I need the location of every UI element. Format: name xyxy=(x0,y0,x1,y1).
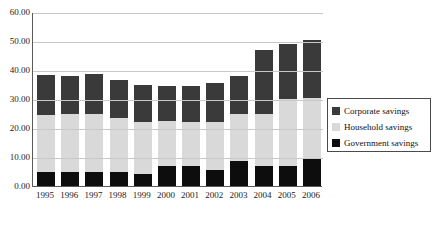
x-axis-tick-label: 2003 xyxy=(225,190,251,201)
bar-segment xyxy=(279,99,297,166)
gridline xyxy=(33,42,323,43)
y-axis-tick-label: 40.00 xyxy=(0,66,30,75)
bar-segment xyxy=(279,166,297,186)
legend-label: Household savings xyxy=(344,122,412,132)
bar-segment xyxy=(303,40,321,98)
bar-segment xyxy=(158,86,176,121)
x-axis-tick-label: 2000 xyxy=(153,190,179,201)
stacked-bar-chart: 60.0050.0040.0030.0020.0010.000.00 19951… xyxy=(0,0,434,232)
legend-swatch-icon xyxy=(332,123,340,131)
x-axis-tick-label: 1997 xyxy=(80,190,106,201)
bar-segment xyxy=(158,166,176,186)
bar-segment xyxy=(255,50,273,114)
x-axis-tick-label: 1999 xyxy=(129,190,155,201)
bar-segment xyxy=(303,98,321,159)
bar-column xyxy=(37,75,55,186)
x-axis-tick-label: 2002 xyxy=(201,190,227,201)
bars-container xyxy=(33,12,323,186)
bar-segment xyxy=(230,114,248,162)
bar-segment xyxy=(61,76,79,114)
bar-column xyxy=(230,76,248,186)
legend-item: Corporate savings xyxy=(332,103,427,119)
bar-column xyxy=(303,40,321,186)
gridline xyxy=(33,100,323,101)
legend-swatch-icon xyxy=(332,107,340,115)
bar-segment xyxy=(182,166,200,186)
x-axis: 1995199619971998199920002001200220032004… xyxy=(32,190,322,204)
y-axis: 60.0050.0040.0030.0020.0010.000.00 xyxy=(0,0,30,232)
bar-column xyxy=(206,83,224,186)
bar-segment xyxy=(110,172,128,187)
x-axis-tick-label: 2004 xyxy=(250,190,276,201)
bar-segment xyxy=(85,74,103,113)
bar-segment xyxy=(182,86,200,122)
bar-column xyxy=(85,74,103,186)
x-axis-tick-label: 2001 xyxy=(177,190,203,201)
legend-item: Household savings xyxy=(332,119,427,135)
gridline xyxy=(33,158,323,159)
legend-label: Government savings xyxy=(344,138,418,148)
bar-segment xyxy=(134,174,152,186)
bar-segment xyxy=(85,172,103,187)
bar-column xyxy=(279,44,297,186)
bar-segment xyxy=(61,114,79,172)
bar-segment xyxy=(206,170,224,186)
y-axis-tick-label: 50.00 xyxy=(0,37,30,46)
y-axis-tick-label: 30.00 xyxy=(0,95,30,104)
legend-label: Corporate savings xyxy=(344,106,409,116)
bar-segment xyxy=(37,115,55,172)
x-axis-tick-label: 1998 xyxy=(105,190,131,201)
y-axis-tick-label: 20.00 xyxy=(0,124,30,133)
y-axis-tick-label: 0.00 xyxy=(0,182,30,191)
x-axis-tick-label: 1995 xyxy=(32,190,58,201)
bar-segment xyxy=(230,161,248,186)
chart-legend: Corporate savingsHousehold savingsGovern… xyxy=(327,98,431,152)
bar-segment xyxy=(230,76,248,114)
bar-segment xyxy=(134,122,152,174)
bar-segment xyxy=(61,172,79,187)
bar-segment xyxy=(206,83,224,122)
x-axis-tick-label: 2005 xyxy=(274,190,300,201)
bar-segment xyxy=(303,158,321,186)
bar-segment xyxy=(37,75,55,115)
bar-segment xyxy=(37,172,55,187)
plot-area xyxy=(32,13,322,187)
bar-column xyxy=(110,80,128,186)
gridline xyxy=(33,13,323,14)
y-axis-tick-label: 10.00 xyxy=(0,153,30,162)
gridline xyxy=(33,129,323,130)
legend-swatch-icon xyxy=(332,139,340,147)
y-axis-tick-label: 60.00 xyxy=(0,8,30,17)
bar-column xyxy=(61,76,79,186)
bar-segment xyxy=(255,166,273,186)
x-axis-tick-label: 1996 xyxy=(56,190,82,201)
legend-item: Government savings xyxy=(332,135,427,151)
bar-segment xyxy=(85,114,103,172)
bar-segment xyxy=(110,118,128,172)
x-axis-tick-label: 2006 xyxy=(298,190,324,201)
bar-segment xyxy=(134,85,152,123)
gridline xyxy=(33,71,323,72)
